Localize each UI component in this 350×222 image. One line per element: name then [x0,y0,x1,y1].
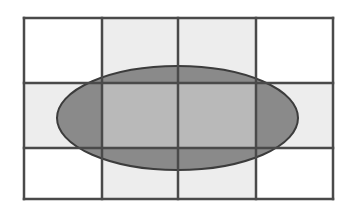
inner-cell-r1-c2 [178,83,256,148]
grid-cell-r0-c3 [256,18,333,83]
grid-ellipse-diagram [0,0,350,222]
grid-cell-r2-c3 [256,148,333,199]
grid-cell-r0-c0 [24,18,102,83]
grid-cell-r2-c0 [24,148,102,199]
inner-cell-r1-c1 [102,83,178,148]
